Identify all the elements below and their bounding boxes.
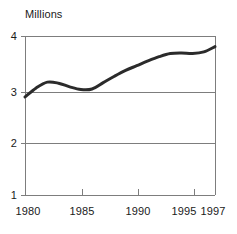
- x-tick-label-1997: 1997: [201, 205, 226, 217]
- x-axis-tick-labels: 1980 1985 1990 1995 1997: [16, 205, 226, 217]
- y-tick-label-2: 2: [11, 137, 17, 149]
- x-axis-ticks: [82, 189, 194, 195]
- y-axis-ticks: [21, 36, 25, 195]
- chart-container: Millions 4 3: [0, 0, 237, 234]
- x-tick-label-1980: 1980: [16, 205, 41, 217]
- y-tick-label-1: 1: [11, 189, 17, 201]
- data-series-line: [25, 47, 215, 97]
- x-tick-label-1985: 1985: [70, 205, 95, 217]
- y-axis-tick-labels: 4 3 2 1: [11, 30, 17, 201]
- y-tick-label-3: 3: [11, 86, 17, 98]
- line-chart-plot: 4 3 2 1 1980 1985 1990 1995 1997: [0, 0, 237, 234]
- y-tick-label-4: 4: [11, 30, 17, 42]
- gridlines: [25, 92, 215, 143]
- x-tick-label-1995: 1995: [172, 205, 197, 217]
- plot-frame: [25, 36, 215, 195]
- x-tick-label-1990: 1990: [126, 205, 151, 217]
